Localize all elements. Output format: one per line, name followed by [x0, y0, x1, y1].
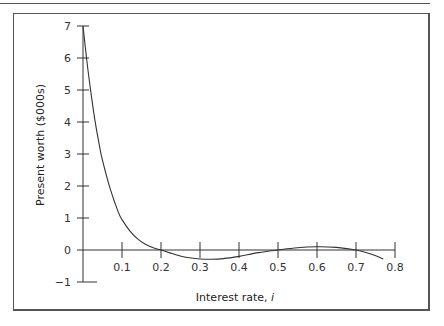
y-tick-label: −1 — [55, 276, 71, 289]
y-tick-label: 3 — [64, 148, 71, 161]
y-tick-label: 0 — [64, 244, 71, 257]
axes — [77, 26, 395, 282]
x-tick-label: 0.6 — [308, 261, 326, 274]
y-axis-label: Present worth ($000s) — [34, 84, 47, 206]
y-tick-label: 4 — [64, 116, 71, 129]
x-tick-label: 0.8 — [386, 261, 404, 274]
x-tick-label: 0.3 — [191, 261, 209, 274]
x-tick-label: 0.5 — [269, 261, 287, 274]
y-tick-label: 5 — [64, 84, 71, 97]
y-tick-label: 2 — [64, 180, 71, 193]
x-axis-label: Interest rate, i — [196, 291, 274, 304]
y-tick-label: 1 — [64, 212, 71, 225]
present-worth-curve — [83, 26, 383, 259]
x-tick-label: 0.7 — [347, 261, 365, 274]
x-tick-label: 0.1 — [113, 261, 131, 274]
x-tick-label: 0.4 — [230, 261, 248, 274]
x-axis-ticks: 0.10.20.30.40.50.60.70.8 — [113, 242, 404, 274]
y-tick-label: 6 — [64, 52, 71, 65]
x-tick-label: 0.2 — [152, 261, 170, 274]
present-worth-chart: 76543210−1 0.10.20.30.40.50.60.70.8 Inte… — [0, 0, 444, 326]
y-tick-label: 7 — [64, 20, 71, 33]
y-axis-ticks: 76543210−1 — [55, 20, 97, 289]
